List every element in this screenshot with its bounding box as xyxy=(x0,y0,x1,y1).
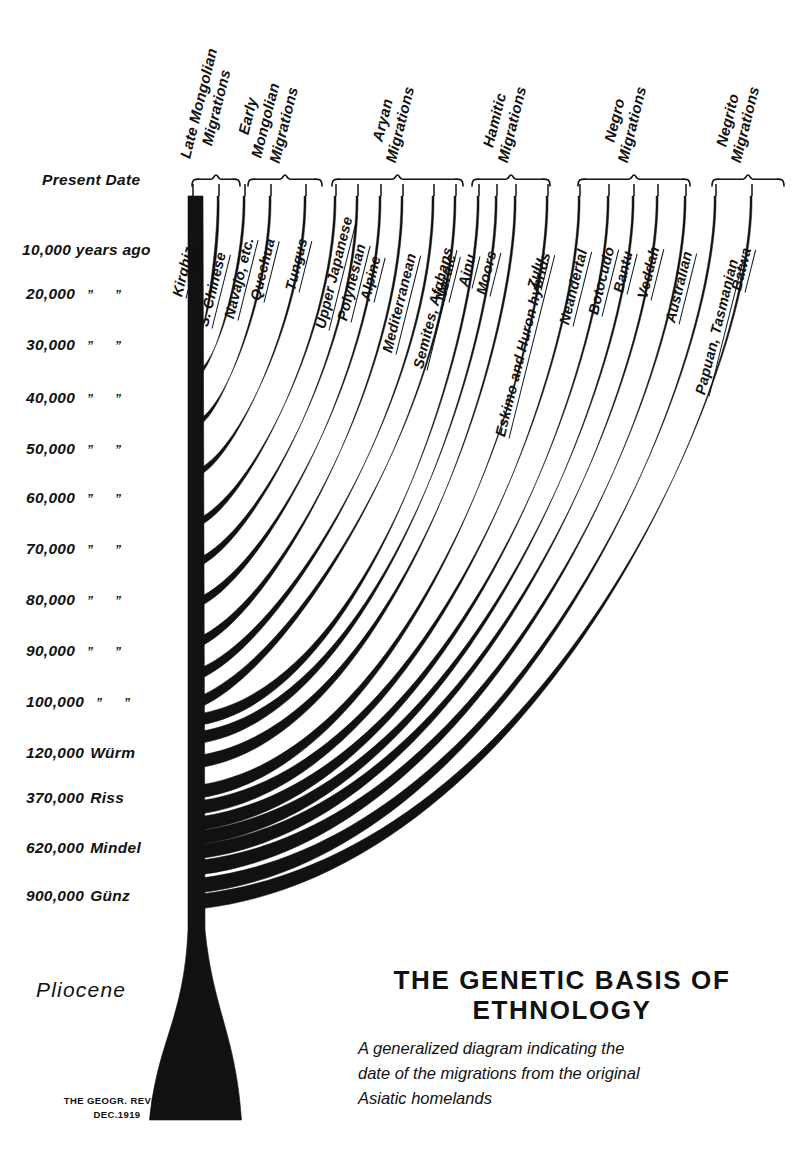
time-axis-tick: 620,000Mindel xyxy=(26,839,141,857)
page-title: THE GENETIC BASIS OF ETHNOLOGY xyxy=(352,965,772,1025)
time-axis-tick: 70,000”” xyxy=(26,540,131,558)
subtitle-line-1: A generalized diagram indicating the xyxy=(358,1036,772,1061)
subtitle: A generalized diagram indicating the dat… xyxy=(352,1036,772,1110)
time-axis-tick: 20,000”” xyxy=(26,285,131,303)
time-axis-tick-value: 370,000 xyxy=(26,789,84,807)
ditto-mark: ” xyxy=(105,392,131,406)
time-axis-tick: 50,000”” xyxy=(26,440,131,458)
ditto-mark: ” xyxy=(114,696,140,710)
ditto-mark: ” xyxy=(75,492,105,506)
time-axis-tick-value: 120,000 xyxy=(26,744,84,762)
credit-line-2: DEC.1919 xyxy=(42,1108,192,1122)
time-axis-tick: 30,000”” xyxy=(26,336,131,354)
subtitle-line-3: Asiatic homelands xyxy=(358,1086,772,1111)
time-axis-tick: 370,000Riss xyxy=(26,789,124,807)
group-braces xyxy=(192,175,784,186)
time-axis-tick-value: 100,000 xyxy=(26,693,84,711)
genetic-basis-of-ethnology-diagram: Present Date10,000 years ago20,000””30,0… xyxy=(0,0,796,1157)
ditto-mark: ” xyxy=(75,339,105,353)
time-axis-tick: 40,000”” xyxy=(26,389,131,407)
ditto-mark: ” xyxy=(105,288,131,302)
glacial-period-label: Mindel xyxy=(84,839,141,857)
time-axis-tick-value: 40,000 xyxy=(26,389,75,407)
time-axis-tick-value: 20,000 xyxy=(26,285,75,303)
title-line-2: ETHNOLOGY xyxy=(352,995,772,1025)
ditto-mark: ” xyxy=(75,645,105,659)
time-axis-tick-value: 30,000 xyxy=(26,336,75,354)
subtitle-line-2: date of the migrations from the original xyxy=(358,1061,772,1086)
time-axis-tick: 900,000Günz xyxy=(26,887,130,905)
ditto-mark: ” xyxy=(105,645,131,659)
ditto-mark: ” xyxy=(105,594,131,608)
ditto-mark: ” xyxy=(84,696,114,710)
credit-line-1: THE GEOGR. REVIEW xyxy=(42,1094,192,1108)
glacial-period-label: Würm xyxy=(84,744,135,762)
publication-credit: THE GEOGR. REVIEW DEC.1919 xyxy=(42,1094,192,1123)
title-line-1: THE GENETIC BASIS OF xyxy=(352,965,772,995)
ditto-mark: ” xyxy=(75,392,105,406)
time-axis-tick-value: 70,000 xyxy=(26,540,75,558)
time-axis-tick-value: 80,000 xyxy=(26,591,75,609)
ditto-mark: ” xyxy=(105,339,131,353)
time-axis-tick-value: 60,000 xyxy=(26,489,75,507)
time-axis-tick: 10,000 years ago xyxy=(22,241,151,259)
ditto-mark: ” xyxy=(105,443,131,457)
ditto-mark: ” xyxy=(75,594,105,608)
time-axis-tick: 60,000”” xyxy=(26,489,131,507)
ditto-mark: ” xyxy=(75,288,105,302)
time-axis-tick-value: 90,000 xyxy=(26,642,75,660)
time-axis-tick-label: 10,000 years ago xyxy=(22,241,151,258)
title-block: THE GENETIC BASIS OF ETHNOLOGY A general… xyxy=(352,965,772,1111)
glacial-period-label: Günz xyxy=(84,887,130,905)
time-axis-tick: 90,000”” xyxy=(26,642,131,660)
time-axis-tick: 80,000”” xyxy=(26,591,131,609)
glacial-period-label: Riss xyxy=(84,789,124,807)
ditto-mark: ” xyxy=(105,492,131,506)
pliocene-label: Pliocene xyxy=(36,978,126,1002)
time-axis-tick-value: 50,000 xyxy=(26,440,75,458)
ditto-mark: ” xyxy=(105,543,131,557)
time-axis-tick-value: 900,000 xyxy=(26,887,84,905)
time-axis-tick: Present Date xyxy=(42,171,140,189)
time-axis-tick-label: Present Date xyxy=(42,171,140,188)
time-axis-tick: 100,000”” xyxy=(26,693,140,711)
time-axis-tick-value: 620,000 xyxy=(26,839,84,857)
ditto-mark: ” xyxy=(75,543,105,557)
ditto-mark: ” xyxy=(75,443,105,457)
time-axis-tick: 120,000Würm xyxy=(26,744,135,762)
